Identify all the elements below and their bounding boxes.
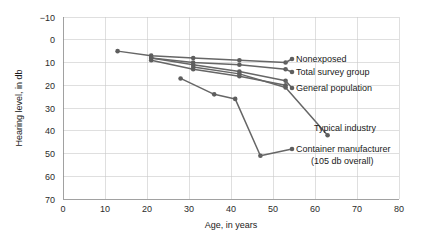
series-label-container-manufacturer-detail: (105 db overall): [311, 156, 374, 166]
y-tick-label: 70: [45, 195, 55, 205]
data-point: [149, 58, 154, 63]
series-leader-line: [260, 149, 292, 156]
series-label-total-survey-group: Total survey group: [296, 67, 370, 77]
y-tick-label: 20: [45, 81, 55, 91]
data-series-layer: [115, 49, 330, 158]
x-tick-label: 10: [100, 204, 110, 214]
data-point: [115, 49, 120, 54]
x-tick-label: 40: [226, 204, 236, 214]
y-axis-tick-labels: −10 0 10 20 30 40 50 60 70: [40, 13, 55, 205]
data-point: [212, 92, 217, 97]
series-label-container-manufacturer: Container manufacturer: [296, 144, 391, 154]
x-tick-label: 20: [142, 204, 152, 214]
hearing-level-line-chart: −10 0 10 20 30 40 50 60 70 0 10 20 30 40…: [0, 0, 423, 239]
series-leader-endpoint: [290, 86, 295, 91]
x-tick-label: 30: [184, 204, 194, 214]
data-point: [237, 72, 242, 77]
x-tick-label: 80: [394, 204, 404, 214]
series-annotations: Nonexposed Total survey group General po…: [296, 54, 391, 166]
series-label-typical-industry: Typical industry: [314, 123, 377, 133]
x-tick-label: 0: [60, 204, 65, 214]
series-line: [181, 78, 261, 155]
data-point: [191, 56, 196, 61]
series-line: [118, 51, 286, 62]
y-tick-label: 60: [45, 172, 55, 182]
y-tick-label: 10: [45, 58, 55, 68]
y-tick-label: 40: [45, 126, 55, 136]
series-line: [193, 67, 327, 135]
series-label-nonexposed: Nonexposed: [296, 54, 347, 64]
data-point: [237, 58, 242, 63]
data-point: [325, 133, 330, 138]
data-point: [237, 62, 242, 67]
y-tick-label: 30: [45, 104, 55, 114]
x-axis-title: Age, in years: [205, 220, 258, 230]
y-axis-title: Hearing level, in db: [14, 69, 24, 146]
series-leader-endpoint: [290, 57, 295, 62]
data-point: [233, 97, 238, 102]
series-leader-endpoint: [290, 147, 295, 152]
y-tick-label: −10: [40, 13, 55, 23]
chart-container: −10 0 10 20 30 40 50 60 70 0 10 20 30 40…: [0, 0, 423, 239]
series-leader-endpoint: [290, 70, 295, 75]
y-tick-label: 50: [45, 149, 55, 159]
series-label-general-population: General population: [296, 83, 372, 93]
data-point: [178, 76, 183, 81]
data-point: [191, 65, 196, 70]
x-tick-label: 60: [310, 204, 320, 214]
data-point: [283, 85, 288, 90]
y-tick-label: 0: [50, 35, 55, 45]
x-axis-tick-labels: 0 10 20 30 40 50 60 70 80: [60, 204, 404, 214]
x-tick-label: 50: [268, 204, 278, 214]
x-tick-label: 70: [352, 204, 362, 214]
